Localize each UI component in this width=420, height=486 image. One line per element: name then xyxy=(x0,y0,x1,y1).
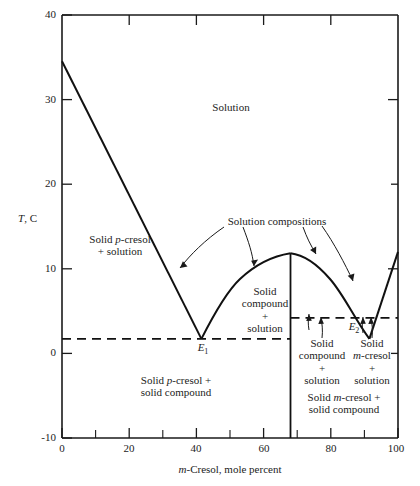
x-axis-major-ticks-top xyxy=(129,15,331,25)
y-axis-right-ticks xyxy=(388,100,398,354)
liquidus-p-cresol xyxy=(62,61,201,339)
y-tick-label-30: 30 xyxy=(24,93,56,105)
x-axis-minor-ticks-bottom xyxy=(96,430,365,438)
region-label-solid-mcresol-solution: Solidm-cresol+solution xyxy=(342,337,402,386)
region-label-solution: Solution xyxy=(212,101,249,113)
x-axis-title: m-Cresol, mole percent xyxy=(179,463,282,475)
annotation-arrows xyxy=(180,226,354,281)
y-tick-label-10: 10 xyxy=(24,262,56,274)
eutectic-2-subscript: 2 xyxy=(355,326,359,335)
liquidus-m-cresol xyxy=(369,252,398,339)
y-tick-label-neg10: -10 xyxy=(18,431,56,443)
y-tick-label-40: 40 xyxy=(24,8,56,20)
eutectic-1-label: E1 xyxy=(198,341,209,357)
eutectic-2-label: E2 xyxy=(349,320,360,336)
y-tick-label-0: 0 xyxy=(24,346,56,358)
x-tick-label-100: 100 xyxy=(388,442,405,454)
x-tick-label-80: 80 xyxy=(326,442,337,454)
eutectic-1-subscript: 1 xyxy=(204,347,208,356)
annotation-solution-compositions: Solution compositions xyxy=(228,215,327,227)
phase-diagram-figure: 40 30 20 10 0 -10 0 20 40 60 80 100 T, C… xyxy=(0,0,420,486)
x-tick-label-0: 0 xyxy=(59,442,65,454)
region-label-solid-compound-solution-left: Solidcompound+solution xyxy=(230,285,300,334)
x-tick-label-60: 60 xyxy=(259,442,270,454)
region-label-solid-pcresol-solution: Solid p-cresol+ solution xyxy=(65,233,175,258)
eutectic-1-symbol: E xyxy=(198,341,205,353)
region-label-solid-pcresol-solid-compound: Solid p-cresol +solid compound xyxy=(96,374,256,399)
x-tick-label-40: 40 xyxy=(191,442,202,454)
region-label-solid-mcresol-solid-compound: Solid m-cresol +solid compound xyxy=(288,391,400,416)
y-tick-label-20: 20 xyxy=(24,177,56,189)
eutectic-2-symbol: E xyxy=(349,320,356,332)
x-tick-label-20: 20 xyxy=(124,442,135,454)
y-axis-title: T, C xyxy=(18,212,37,224)
